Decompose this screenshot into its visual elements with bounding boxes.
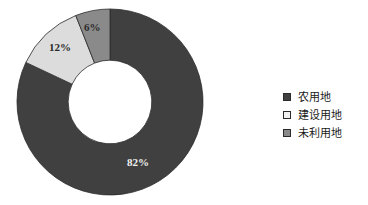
legend-item-construction[interactable]: 建设用地	[283, 107, 368, 123]
legend-item-agricultural[interactable]: 农用地	[283, 89, 368, 105]
legend-swatch-unused-icon	[283, 129, 291, 137]
donut-chart-svg	[0, 0, 230, 205]
legend-swatch-agricultural-icon	[283, 93, 291, 101]
donut-slice-label-agricultural: 82%	[127, 156, 149, 168]
chart-legend: 农用地 建设用地 未利用地	[283, 89, 368, 143]
donut-slice-label-construction: 12%	[49, 41, 71, 53]
donut-slices	[17, 9, 203, 195]
legend-item-unused[interactable]: 未利用地	[283, 125, 368, 141]
donut-chart-figure: 82% 12% 6% 农用地 建设用地 未利用地	[0, 0, 368, 205]
donut-slice-label-unused: 6%	[84, 21, 101, 33]
donut-chart-plot-area: 82% 12% 6%	[0, 0, 230, 205]
legend-label-construction: 建设用地	[298, 109, 342, 121]
legend-swatch-construction-icon	[283, 111, 291, 119]
legend-label-unused: 未利用地	[298, 127, 342, 139]
legend-label-agricultural: 农用地	[298, 91, 331, 103]
